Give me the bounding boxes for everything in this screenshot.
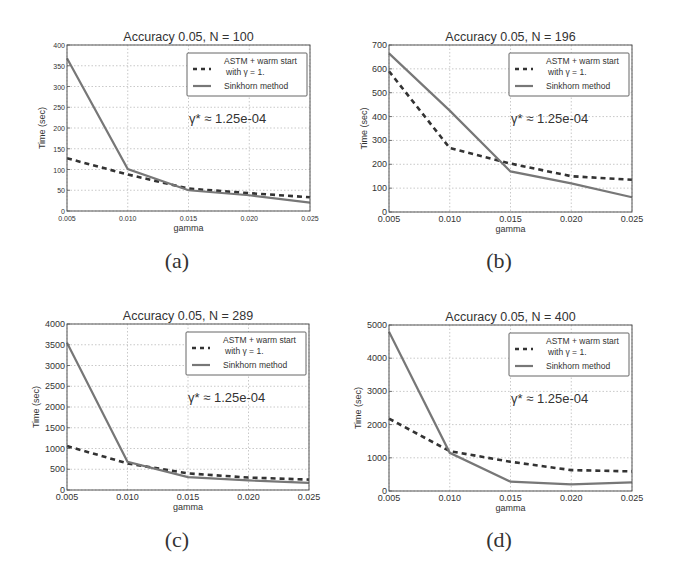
chart-d: Accuracy 0.05, N = 400010002000300040005… bbox=[0, 0, 674, 520]
svg-text:5000: 5000 bbox=[367, 320, 387, 330]
gamma-star-annotation: γ* ≈ 1.25e-04 bbox=[511, 391, 588, 406]
y-axis-ticks: 010002000300040005000 bbox=[367, 320, 392, 496]
subplot-d: Accuracy 0.05, N = 400010002000300040005… bbox=[0, 0, 674, 586]
svg-text:0.020: 0.020 bbox=[560, 493, 583, 503]
chart-title: Accuracy 0.05, N = 400 bbox=[445, 310, 575, 324]
svg-text:0.010: 0.010 bbox=[438, 493, 461, 503]
x-axis-label: gamma bbox=[495, 503, 525, 513]
x-axis-ticks: 0.0050.0100.0150.0200.025 bbox=[378, 493, 644, 503]
svg-text:1000: 1000 bbox=[367, 453, 387, 463]
svg-text:Sinkhorn method: Sinkhorn method bbox=[546, 361, 611, 371]
svg-text:with γ = 1.: with γ = 1. bbox=[547, 347, 587, 357]
y-axis-label: Time (sec) bbox=[353, 387, 363, 429]
svg-text:2000: 2000 bbox=[367, 420, 387, 430]
svg-text:3000: 3000 bbox=[367, 386, 387, 396]
svg-text:0.015: 0.015 bbox=[499, 493, 522, 503]
legend: ASTM + warm startwith γ = 1.Sinkhorn met… bbox=[509, 333, 629, 376]
svg-text:4000: 4000 bbox=[367, 353, 387, 363]
caption-d: (d) bbox=[469, 527, 529, 553]
svg-text:ASTM + warm start: ASTM + warm start bbox=[546, 336, 620, 346]
svg-text:0.025: 0.025 bbox=[621, 493, 644, 503]
svg-text:0.005: 0.005 bbox=[378, 493, 401, 503]
